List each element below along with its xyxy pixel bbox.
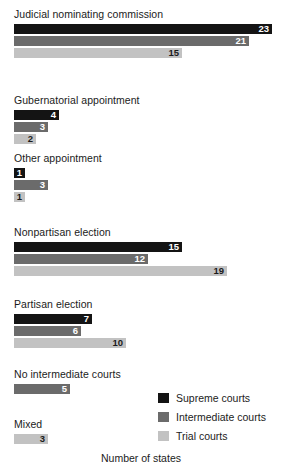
bar-row: 21 xyxy=(14,36,282,46)
bar-row: 1 xyxy=(14,168,282,178)
bar-value-label: 7 xyxy=(14,313,89,324)
bar-group-label: Gubernatorial appointment xyxy=(0,94,282,107)
bar-row: 15 xyxy=(14,48,282,58)
legend-item[interactable]: Intermediate courts xyxy=(158,410,266,423)
bar-value-label: 12 xyxy=(14,253,145,264)
legend-item-label: Supreme courts xyxy=(176,392,250,404)
bar-value-label: 23 xyxy=(14,23,269,34)
bar-row: 2 xyxy=(14,134,282,144)
bar-group-label: No intermediate courts xyxy=(0,368,282,381)
bar-row: 23 xyxy=(14,24,282,34)
bar-row: 19 xyxy=(14,266,282,276)
bar-row: 4 xyxy=(14,110,282,120)
bar-group-label: Nonpartisan election xyxy=(0,226,282,239)
bar-row: 15 xyxy=(14,242,282,252)
bar-group: Gubernatorial appointment432 xyxy=(0,94,282,146)
x-axis-label: Number of states xyxy=(0,452,282,464)
bar-value-label: 1 xyxy=(14,167,22,178)
bar-value-label: 6 xyxy=(14,325,78,336)
bar-group: Judicial nominating commission232115 xyxy=(0,8,282,60)
bar-value-label: 4 xyxy=(14,109,56,120)
bar-row: 3 xyxy=(14,122,282,132)
bar-value-label: 19 xyxy=(14,265,224,276)
chart-legend: Supreme courtsIntermediate courtsTrial c… xyxy=(158,391,266,448)
bar-row: 3 xyxy=(14,180,282,190)
bar-group-bars: 7610 xyxy=(0,311,282,348)
bar-row: 6 xyxy=(14,326,282,336)
bar-group: Other appointment131 xyxy=(0,152,282,204)
bar-group-label: Other appointment xyxy=(0,152,282,165)
legend-item-label: Trial courts xyxy=(176,430,228,442)
bar-group-label: Judicial nominating commission xyxy=(0,8,282,21)
legend-item[interactable]: Supreme courts xyxy=(158,391,266,404)
bar-row: 1 xyxy=(14,192,282,202)
bar-row: 7 xyxy=(14,314,282,324)
bar-value-label: 3 xyxy=(14,121,45,132)
legend-swatch-icon xyxy=(158,412,169,422)
bar-group-bars: 131 xyxy=(0,165,282,202)
bar-row: 12 xyxy=(14,254,282,264)
bar-value-label: 2 xyxy=(14,133,33,144)
bar-value-label: 15 xyxy=(14,47,179,58)
bar-value-label: 10 xyxy=(14,337,123,348)
legend-swatch-icon xyxy=(158,393,169,403)
bar-group: Partisan election7610 xyxy=(0,298,282,350)
legend-swatch-icon xyxy=(158,431,169,441)
bar-value-label: 21 xyxy=(14,35,246,46)
bar-value-label: 3 xyxy=(14,179,45,190)
bar-value-label: 3 xyxy=(14,433,45,444)
bar-value-label: 15 xyxy=(14,241,179,252)
bar-group-label: Partisan election xyxy=(0,298,282,311)
bar-value-label: 1 xyxy=(14,191,22,202)
bar-group: Nonpartisan election151219 xyxy=(0,226,282,278)
bar-row: 10 xyxy=(14,338,282,348)
bar-group-bars: 432 xyxy=(0,107,282,144)
legend-item-label: Intermediate courts xyxy=(176,411,266,423)
bar-group-bars: 151219 xyxy=(0,239,282,276)
legend-item[interactable]: Trial courts xyxy=(158,429,266,442)
bar-value-label: 5 xyxy=(14,383,67,394)
bar-group-bars: 232115 xyxy=(0,21,282,58)
bar-chart: Judicial nominating commission232115Gube… xyxy=(0,0,282,476)
